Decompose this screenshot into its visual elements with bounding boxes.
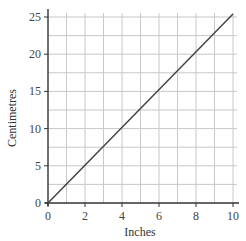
y-tick-label: 0 bbox=[35, 196, 41, 210]
x-tick-label: 4 bbox=[119, 209, 125, 223]
y-tick-label: 5 bbox=[35, 159, 41, 173]
chart: 0246810 0510152025 Inches Centimetres bbox=[0, 0, 246, 241]
x-tick-label: 0 bbox=[45, 209, 51, 223]
x-tick-label: 8 bbox=[193, 209, 199, 223]
y-tick-label: 15 bbox=[29, 84, 41, 98]
y-tick-label: 25 bbox=[29, 10, 41, 24]
y-axis-label: Centimetres bbox=[5, 89, 19, 147]
y-tick-labels: 0510152025 bbox=[29, 10, 41, 210]
x-tick-label: 10 bbox=[227, 209, 239, 223]
y-tick-label: 10 bbox=[29, 122, 41, 136]
x-tick-label: 2 bbox=[82, 209, 88, 223]
x-tick-label: 6 bbox=[156, 209, 162, 223]
x-tick-labels: 0246810 bbox=[45, 209, 239, 223]
y-tick-label: 20 bbox=[29, 47, 41, 61]
x-axis-label: Inches bbox=[124, 225, 156, 239]
